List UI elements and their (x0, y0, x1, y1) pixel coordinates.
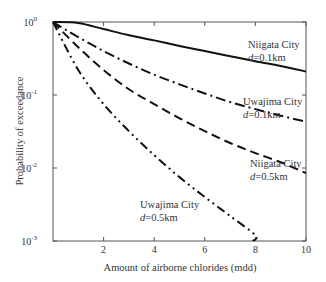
x-tick-label: 10 (301, 244, 311, 255)
y-tick-label: 100 (24, 15, 38, 28)
annotation-city: Uwajima City (140, 199, 200, 210)
chart: 246810 10010-110-210-3 Niigata Cityd=0.1… (0, 0, 326, 282)
x-tick-label: 6 (202, 244, 207, 255)
y-tick-label: 10-3 (21, 234, 37, 247)
y-axis-title: Probability of exceedance (14, 76, 25, 185)
annotation-city: Uwajima City (243, 96, 303, 107)
x-tick-label: 4 (152, 244, 157, 255)
annotation-distance: d=0.5km (140, 212, 178, 223)
x-tick-label: 2 (101, 244, 106, 255)
annotations: Niigata Cityd=0.1kmUwajima Cityd=0.1kmNi… (140, 39, 303, 223)
x-tick-label: 8 (253, 244, 258, 255)
annotation-distance: d=0.5km (250, 171, 288, 182)
annotation-distance: d=0.1km (248, 52, 286, 63)
annotation-city: Niigata City (250, 158, 302, 169)
annotation-city: Niigata City (248, 39, 300, 50)
annotation-distance: d=0.1km (243, 109, 281, 120)
x-axis-title: Amount of airborne chlorides (mdd) (104, 262, 257, 274)
